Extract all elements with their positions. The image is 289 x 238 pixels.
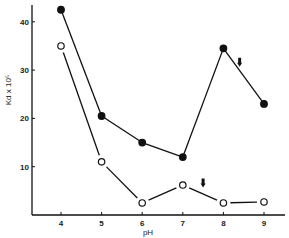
x-tick-label: 5 <box>99 219 104 228</box>
filled-circle-marker <box>58 6 65 13</box>
x-tick-label: 8 <box>221 219 226 228</box>
x-tick-label: 7 <box>181 219 186 228</box>
filled-circle-marker <box>98 113 105 120</box>
y-axis-label: Kd x 10⁵ <box>4 75 13 105</box>
open-circle-marker <box>220 200 226 206</box>
open-circle-marker <box>98 159 104 165</box>
filled-circle-marker <box>220 45 227 52</box>
filled-circle-marker <box>261 101 268 108</box>
arrow-down-icon <box>237 58 242 67</box>
series-segment <box>189 188 217 200</box>
filled-circle-marker <box>139 139 146 146</box>
y-tick-label: 30 <box>20 66 29 75</box>
series-segment <box>107 167 138 198</box>
x-axis-label: pH <box>143 228 153 237</box>
series-segment <box>223 48 264 104</box>
y-tick-label: 40 <box>20 18 29 27</box>
series-segment <box>102 116 143 143</box>
open-circle-marker <box>180 182 186 188</box>
series-segment <box>149 188 177 200</box>
annotations-layer <box>201 58 243 188</box>
open-circle-marker <box>58 43 64 49</box>
axes: 10203040456789 <box>20 5 285 228</box>
series-filled <box>58 6 268 160</box>
y-tick-label: 20 <box>20 114 29 123</box>
series-segment <box>230 202 257 203</box>
ph-kd-chart: 10203040456789 pH Kd x 10⁵ <box>0 0 289 238</box>
series-segment <box>183 48 224 157</box>
x-tick-label: 6 <box>140 219 145 228</box>
series-segment <box>142 143 183 157</box>
arrow-down-icon <box>201 179 206 188</box>
open-circle-marker <box>261 199 267 205</box>
series-segment <box>63 53 99 156</box>
filled-circle-marker <box>180 154 187 161</box>
y-tick-label: 10 <box>20 163 29 172</box>
series-layer <box>58 6 268 206</box>
series-open <box>58 43 267 206</box>
x-tick-label: 4 <box>59 219 64 228</box>
x-tick-label: 9 <box>262 219 267 228</box>
open-circle-marker <box>139 200 145 206</box>
